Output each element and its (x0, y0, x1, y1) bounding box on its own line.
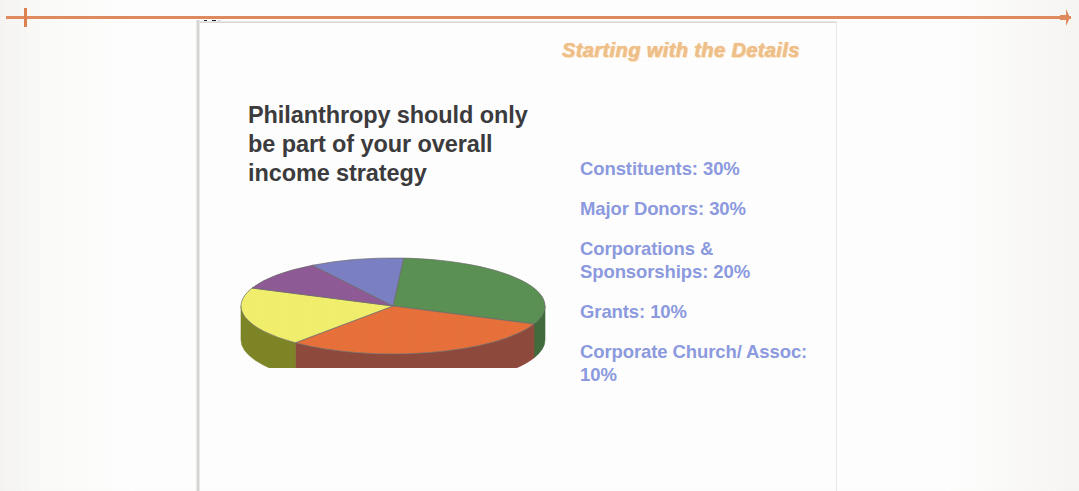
legend-item: Corporations & Sponsorships: 20% (580, 237, 830, 283)
legend-item: Grants: 10% (580, 300, 830, 323)
page-top-edge (200, 22, 836, 23)
chart-legend: Constituents: 30% Major Donors: 30% Corp… (580, 157, 830, 403)
legend-item: Major Donors: 30% (580, 197, 830, 220)
ruler-guide-line (6, 16, 1071, 19)
slide-title: Starting with the Details (562, 39, 800, 62)
pie-chart-3d (238, 248, 556, 368)
pie-chart-svg (238, 248, 556, 368)
ruler-tick-left (24, 8, 27, 27)
legend-item: Constituents: 30% (580, 157, 830, 180)
slide-heading: Philanthropy should only be part of your… (248, 101, 558, 188)
legend-item: Corporate Church/ Assoc: 10% (580, 340, 830, 386)
